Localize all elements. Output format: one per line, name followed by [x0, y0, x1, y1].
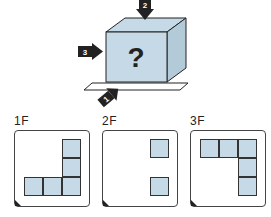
grid-cell [24, 177, 43, 196]
grid-cell [62, 158, 81, 177]
grid-cell [43, 177, 62, 196]
panel-3f [190, 130, 266, 207]
grid-cell [238, 158, 257, 177]
panel-2f [102, 130, 178, 207]
svg-text:3: 3 [83, 48, 88, 57]
grid-cell [238, 139, 257, 158]
corner-marker-icon [103, 200, 109, 206]
grid-cell [62, 139, 81, 158]
cube-diagram: ? 2 3 1 [0, 0, 271, 110]
panel-1f [14, 130, 90, 207]
panel-3f-label: 3F [190, 114, 205, 128]
grid-cell [62, 177, 81, 196]
corner-marker-icon [191, 200, 197, 206]
grid-cell [150, 177, 169, 196]
panel-2f-label: 2F [102, 114, 117, 128]
corner-marker-icon [15, 200, 21, 206]
arrow-2-icon: 2 [136, 0, 154, 20]
panel-1f-label: 1F [14, 114, 29, 128]
grid-cell [200, 139, 219, 158]
question-mark: ? [127, 42, 144, 73]
base-plate [84, 83, 188, 90]
grid-cell [219, 139, 238, 158]
grid-cell [150, 139, 169, 158]
grid-cell [238, 177, 257, 196]
arrow-3-icon: 3 [78, 43, 103, 60]
svg-text:2: 2 [143, 1, 148, 10]
